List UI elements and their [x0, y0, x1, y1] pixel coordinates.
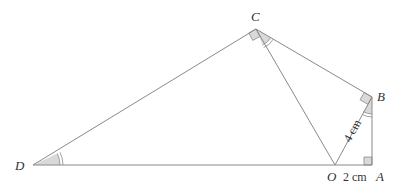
- measure-OB: 4 cm: [340, 116, 364, 144]
- label-A: A: [375, 169, 384, 184]
- label-B: B: [377, 89, 385, 104]
- segment-CB: [256, 29, 372, 97]
- label-O: O: [327, 169, 337, 184]
- angle-marker-D: [33, 154, 60, 165]
- angle-arc-D-2: [60, 152, 63, 165]
- geometry-diagram: C B A O D 4 cm 2 cm: [0, 0, 401, 188]
- segment-CO: [256, 29, 335, 165]
- measure-OA: 2 cm: [343, 170, 367, 184]
- angle-arc-B-2: [362, 114, 372, 117]
- label-C: C: [251, 9, 260, 24]
- label-D: D: [14, 158, 25, 173]
- segment-DC: [33, 29, 256, 165]
- right-angle-A: [364, 157, 372, 165]
